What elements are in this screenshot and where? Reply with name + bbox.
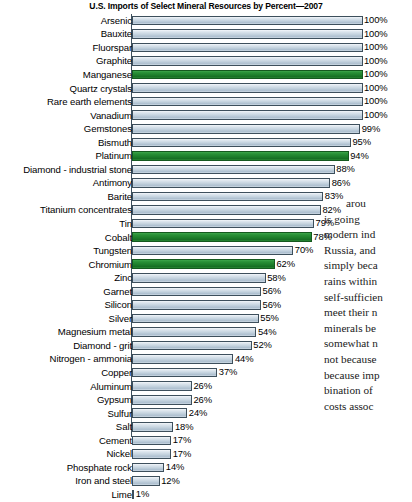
chart-row: Bauxite100% bbox=[0, 28, 412, 42]
bar-track bbox=[132, 381, 192, 391]
bar-track bbox=[132, 354, 233, 364]
bar-value-label: 26% bbox=[193, 380, 211, 391]
bar-value-label: 99% bbox=[362, 123, 380, 134]
bar-track bbox=[132, 395, 192, 405]
category-label: Cement bbox=[0, 436, 132, 446]
body-text-line: modern ind bbox=[324, 227, 410, 243]
bar bbox=[132, 205, 321, 215]
chart-title: U.S. Imports of Select Mineral Resources… bbox=[0, 1, 412, 11]
category-label: Fluorspar bbox=[0, 43, 132, 53]
bar-track bbox=[132, 273, 266, 283]
bar bbox=[132, 327, 256, 337]
chart-row: Phosphate rock14% bbox=[0, 461, 412, 475]
category-label: Silicon bbox=[0, 300, 132, 310]
bar bbox=[132, 490, 134, 500]
bar bbox=[132, 219, 314, 229]
category-label: Platinum bbox=[0, 151, 132, 161]
bar-track bbox=[132, 70, 363, 80]
bar bbox=[132, 83, 363, 93]
chart-row: Bismuth95% bbox=[0, 136, 412, 150]
bar-track bbox=[132, 314, 259, 324]
bar bbox=[132, 300, 261, 310]
category-label: Nitrogen - ammonia bbox=[0, 354, 132, 364]
category-label: Rare earth elements bbox=[0, 97, 132, 107]
body-text-line: self-sufficien bbox=[324, 290, 410, 306]
bar-track bbox=[132, 151, 349, 161]
bar-value-label: 54% bbox=[258, 326, 276, 337]
category-label: Bismuth bbox=[0, 138, 132, 148]
bar-value-label: 18% bbox=[175, 421, 193, 432]
bar-track bbox=[132, 368, 217, 378]
chart-row: Gemstones99% bbox=[0, 122, 412, 136]
bar bbox=[132, 408, 187, 418]
bar-track bbox=[132, 341, 252, 351]
category-label: Salt bbox=[0, 422, 132, 432]
bar bbox=[132, 43, 363, 53]
body-text-line: minerals be bbox=[324, 321, 410, 337]
bar-track bbox=[132, 490, 134, 500]
bar-value-label: 100% bbox=[364, 14, 388, 25]
bar bbox=[132, 124, 360, 134]
body-text-line: meet their n bbox=[324, 305, 410, 321]
category-label: Gemstones bbox=[0, 124, 132, 134]
category-label: Phosphate rock bbox=[0, 463, 132, 473]
bar bbox=[132, 178, 330, 188]
bar-value-label: 26% bbox=[193, 394, 211, 405]
bar bbox=[132, 341, 252, 351]
category-label: Garnet bbox=[0, 287, 132, 297]
bar bbox=[132, 354, 233, 364]
bar bbox=[132, 246, 293, 256]
category-label: Copper bbox=[0, 368, 132, 378]
chart-row: Iron and steel12% bbox=[0, 475, 412, 489]
category-label: Antimony bbox=[0, 178, 132, 188]
body-text-line: simply beca bbox=[324, 258, 410, 274]
bar-highlighted bbox=[132, 259, 275, 269]
bar-value-label: 17% bbox=[173, 434, 191, 445]
chart-row: Fluorspar100% bbox=[0, 41, 412, 55]
category-label: Quartz crystals bbox=[0, 84, 132, 94]
bar-track bbox=[132, 110, 363, 120]
bar-track bbox=[132, 124, 360, 134]
category-label: Bauxite bbox=[0, 29, 132, 39]
bar-value-label: 55% bbox=[260, 312, 278, 323]
body-text-line: bination of bbox=[324, 383, 410, 399]
bar-track bbox=[132, 56, 363, 66]
bar-track bbox=[132, 422, 173, 432]
bar-track bbox=[132, 246, 293, 256]
category-label: Magnesium metal bbox=[0, 327, 132, 337]
bar-value-label: 56% bbox=[263, 299, 281, 310]
bar-value-label: 24% bbox=[189, 407, 207, 418]
category-label: Gypsum bbox=[0, 395, 132, 405]
bar bbox=[132, 395, 192, 405]
category-label: Vanadium bbox=[0, 111, 132, 121]
category-label: Nickel bbox=[0, 449, 132, 459]
bar bbox=[132, 449, 171, 459]
bar-track bbox=[132, 29, 363, 39]
bar-value-label: 95% bbox=[352, 136, 370, 147]
bar-track bbox=[132, 259, 275, 269]
bar bbox=[132, 476, 160, 486]
bar bbox=[132, 29, 363, 39]
bar-value-label: 100% bbox=[364, 95, 388, 106]
bar bbox=[132, 110, 363, 120]
bar-highlighted bbox=[132, 70, 363, 80]
chart-row: Graphite100% bbox=[0, 55, 412, 69]
bar-value-label: 1% bbox=[136, 488, 149, 499]
category-label: Manganese bbox=[0, 70, 132, 80]
bar-value-label: 94% bbox=[350, 150, 368, 161]
bar bbox=[132, 368, 217, 378]
category-label: Chromium bbox=[0, 260, 132, 270]
bar bbox=[132, 422, 173, 432]
category-label: Silver bbox=[0, 314, 132, 324]
bar-value-label: 100% bbox=[364, 55, 388, 66]
bar bbox=[132, 314, 259, 324]
bar-track bbox=[132, 205, 321, 215]
bar bbox=[132, 381, 192, 391]
body-text-line: because imp bbox=[324, 368, 410, 384]
body-text-line: not because bbox=[324, 352, 410, 368]
bar-track bbox=[132, 16, 363, 26]
bar-track bbox=[132, 83, 363, 93]
chart-row: Rare earth elements100% bbox=[0, 95, 412, 109]
bar-track bbox=[132, 165, 335, 175]
